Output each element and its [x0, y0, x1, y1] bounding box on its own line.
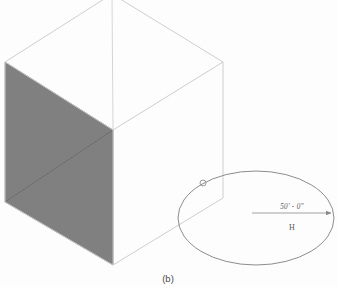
cube-edge-top-vertical: [112, 0, 113, 130]
dimension-label: 50' - 0": [280, 203, 304, 211]
cube-edge-top-right: [112, 0, 223, 62]
dimension-tick-glyph: H: [289, 223, 295, 232]
technical-drawing-canvas: 50' - 0" H (b): [0, 0, 337, 287]
cube-edge-bottom-right: [113, 198, 223, 265]
cube-edge-top-left: [5, 0, 112, 62]
cube-edge-right-to-center: [113, 62, 223, 130]
figure-caption: (b): [162, 273, 174, 284]
figure-container: 50' - 0" H (b): [0, 0, 337, 287]
cube-shaded-face: [5, 62, 113, 265]
